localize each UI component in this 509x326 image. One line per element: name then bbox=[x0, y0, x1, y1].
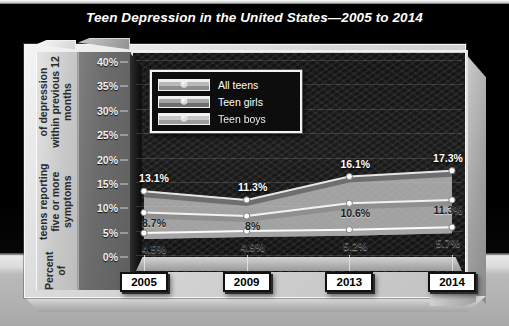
y-axis-title: Percent of teens reporting five or more … bbox=[36, 52, 76, 290]
chart-title: Teen Depression in the United States—200… bbox=[0, 10, 509, 25]
data-label-teen-girls-2005: 13.1% bbox=[139, 172, 169, 184]
data-label-teen-girls-2009: 11.3% bbox=[238, 181, 267, 193]
x-axis-tick-stem bbox=[144, 255, 145, 271]
data-label-teen-boys-2014: 5.7% bbox=[436, 237, 460, 249]
data-label-teen-boys-2009: 4.9% bbox=[241, 241, 265, 253]
data-label-teen-girls-2014: 17.3% bbox=[433, 152, 463, 164]
legend-swatch-teen-boys-icon bbox=[158, 113, 210, 125]
y-axis-tick-mark bbox=[120, 86, 128, 87]
legend-marker-dot-icon bbox=[181, 80, 188, 87]
x-axis-plaque-2013[interactable]: 2013 bbox=[325, 272, 373, 292]
legend-label-all-teens: All teens bbox=[218, 79, 258, 91]
y-axis-title-line-2: teens reporting five or more symptoms bbox=[38, 154, 73, 249]
data-label-all-teens-2009: 8% bbox=[245, 220, 260, 232]
y-axis-tick-mark bbox=[120, 159, 128, 160]
legend-item-teen-boys[interactable]: Teen boys bbox=[158, 111, 294, 127]
legend-item-all-teens[interactable]: All teens bbox=[158, 77, 294, 93]
chart-legend[interactable]: All teens Teen girls Teen boys bbox=[150, 70, 302, 133]
legend-label-teen-girls: Teen girls bbox=[218, 96, 263, 108]
y-axis-tick-mark bbox=[120, 257, 128, 258]
data-label-teen-girls-2013: 16.1% bbox=[340, 158, 370, 170]
y-axis-tick-mark bbox=[120, 135, 128, 136]
y-axis-tick-0: 0% bbox=[103, 251, 118, 263]
x-axis-tick-stem bbox=[247, 255, 248, 271]
legend-marker-dot-icon bbox=[181, 114, 188, 121]
chart-slab-bottom-edge bbox=[24, 296, 486, 312]
x-axis-plaque-2009[interactable]: 2009 bbox=[223, 272, 271, 292]
y-axis-tick-30: 30% bbox=[97, 105, 118, 117]
y-axis-tick-15: 15% bbox=[97, 178, 118, 190]
y-axis-tick-mark bbox=[120, 62, 128, 63]
y-axis-tick-mark bbox=[120, 232, 128, 233]
legend-label-teen-boys: Teen boys bbox=[218, 113, 266, 125]
x-axis-plaque-2014[interactable]: 2014 bbox=[428, 272, 476, 292]
chart-screenshot: Teen Depression in the United States—200… bbox=[0, 0, 509, 326]
x-axis-tick-stem bbox=[452, 255, 453, 271]
legend-marker-dot-icon bbox=[181, 97, 188, 104]
data-label-teen-boys-2013: 5.2% bbox=[343, 240, 367, 252]
data-label-teen-boys-2005: 4.5% bbox=[142, 243, 166, 255]
x-axis-tick-stem bbox=[349, 255, 350, 271]
y-axis-tick-10: 10% bbox=[97, 202, 118, 214]
y-axis-tick-40: 40% bbox=[97, 56, 118, 68]
y-axis-tick-labels: 0%5%10%15%20%25%30%35%40% bbox=[78, 52, 130, 290]
y-axis-title-line-1: Percent of bbox=[44, 251, 68, 290]
y-axis-tick-20: 20% bbox=[97, 154, 118, 166]
y-axis-tick-35: 35% bbox=[97, 80, 118, 92]
data-label-all-teens-2005: 8.7% bbox=[142, 217, 166, 229]
legend-swatch-teen-girls-icon bbox=[158, 96, 210, 108]
y-axis-tick-5: 5% bbox=[103, 227, 118, 239]
top-highlight-strip bbox=[0, 0, 509, 4]
x-axis-plaque-2005[interactable]: 2005 bbox=[120, 272, 168, 292]
data-label-all-teens-2013: 10.6% bbox=[340, 207, 370, 219]
y-axis-tick-mark bbox=[120, 208, 128, 209]
y-axis-tick-mark bbox=[120, 110, 128, 111]
y-axis-tick-25: 25% bbox=[97, 129, 118, 141]
data-label-all-teens-2014: 11.3% bbox=[433, 204, 462, 216]
legend-swatch-all-teens-icon bbox=[158, 79, 210, 91]
y-axis-tick-mark bbox=[120, 183, 128, 184]
y-axis-title-line-3: of depression within previous 12 months bbox=[38, 52, 73, 152]
legend-item-teen-girls[interactable]: Teen girls bbox=[158, 94, 294, 110]
